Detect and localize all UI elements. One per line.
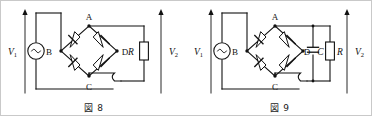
v1-arrow	[208, 9, 213, 93]
cap-top-junction-dot	[312, 25, 315, 28]
node-a-label: A	[272, 12, 279, 22]
figure-8-circuit: V1 B A C D R V2	[1, 1, 187, 116]
output-bottom-rail	[275, 73, 330, 81]
diode-lower-right	[93, 55, 109, 70]
diode-upper-left	[69, 32, 80, 47]
node-b-dot	[245, 49, 248, 52]
diode-upper-left	[255, 32, 266, 47]
diode-lower-right	[279, 55, 295, 70]
figure-8: V1 B A C D R V2 図 8	[1, 1, 187, 116]
bridge-diamond	[61, 26, 117, 76]
figure-page: V1 B A C D R V2 図 8	[0, 0, 372, 116]
figure-8-caption: 図 8	[1, 101, 187, 114]
node-a-label: A	[86, 12, 93, 22]
figure-9-caption: 図 9	[187, 101, 372, 114]
node-c-label: C	[86, 82, 92, 92]
v2-label: V2	[355, 47, 364, 58]
bridge-diamond	[247, 26, 303, 76]
figure-9-circuit: V1 B A C D C R V2	[187, 1, 372, 116]
node-b-dot	[59, 49, 62, 52]
v1-label: V1	[8, 47, 17, 58]
capacitor-c-label: C	[317, 47, 324, 57]
ac-source-branch	[28, 13, 44, 89]
v1-label: V1	[194, 47, 203, 58]
v2-arrow	[158, 9, 163, 93]
diode-lower-left	[69, 55, 80, 70]
cap-bottom-junction-dot	[312, 80, 315, 83]
bridge-node-dots	[59, 24, 118, 77]
ac-source-branch	[214, 13, 230, 89]
node-d-dot	[115, 49, 118, 52]
node-b-label: B	[232, 47, 238, 57]
v2-arrow	[344, 9, 349, 93]
diode-lower-left	[255, 55, 266, 70]
resistor-r-label: R	[127, 47, 134, 57]
node-c-label: C	[272, 82, 278, 92]
resistor-r-body	[326, 42, 335, 60]
figure-9: V1 B A C D C R V2 図 9	[187, 1, 372, 116]
node-b-label: B	[46, 47, 52, 57]
resistor-r-body	[140, 42, 149, 60]
bridge-node-dots	[245, 24, 304, 77]
diode-upper-right	[93, 32, 109, 47]
diode-upper-right	[279, 32, 295, 47]
v2-label: V2	[169, 47, 178, 58]
node-d-label: D	[304, 47, 311, 57]
v1-arrow	[22, 9, 27, 93]
resistor-r-label: R	[336, 47, 343, 57]
